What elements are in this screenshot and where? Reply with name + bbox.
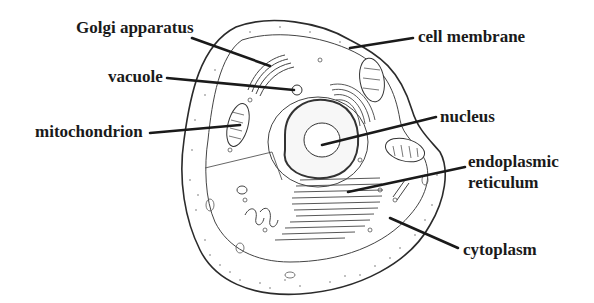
label-er-line1: endoplasmic — [468, 151, 559, 172]
leader-line-vacuole — [167, 78, 294, 90]
label-vacuole: vacuole — [108, 67, 163, 87]
label-golgi-apparatus: Golgi apparatus — [76, 18, 194, 38]
cell-diagram: Golgi apparatus vacuole mitochondrion ce… — [0, 0, 594, 303]
label-endoplasmic-reticulum: endoplasmic reticulum — [468, 151, 559, 193]
leader-line-cytoplasm — [390, 218, 458, 248]
nucleolus-shape — [304, 123, 340, 157]
leader-line-cell-membrane — [350, 38, 413, 48]
label-cell-membrane: cell membrane — [418, 27, 525, 47]
label-mitochondrion: mitochondrion — [35, 122, 143, 142]
label-nucleus: nucleus — [440, 107, 495, 127]
label-er-line2: reticulum — [468, 172, 559, 193]
smooth-er-shape — [237, 186, 278, 227]
label-cytoplasm: cytoplasm — [463, 240, 537, 260]
leader-line-er — [348, 167, 465, 192]
